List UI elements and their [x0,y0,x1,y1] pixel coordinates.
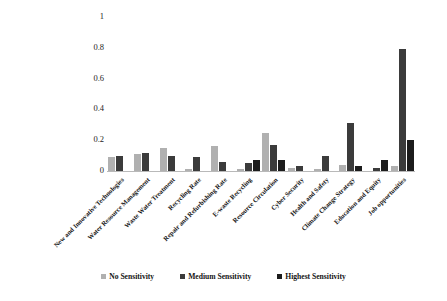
bar-group [210,17,236,171]
bar [407,140,414,171]
legend-label: No Sensitivity [109,272,154,281]
bar [134,154,141,171]
bar [245,163,252,171]
bar [347,123,354,171]
bar [262,133,269,172]
bar [193,157,200,171]
plot-area [107,17,415,171]
legend-item-0[interactable]: No Sensitivity [101,272,154,281]
y-axis-tick-3: 0.6 [93,74,104,83]
chart-legend: No SensitivityMedium SensitivityHighest … [0,272,447,281]
y-axis-tick-5: 1 [100,12,104,21]
bar-group [107,17,133,171]
bar [142,153,149,171]
bar [322,156,329,171]
bar [160,148,167,171]
bar-group [287,17,313,171]
x-axis-labels: New and Innovative TechnologiesWater Res… [0,171,447,251]
y-axis-tick-4: 0.8 [93,43,104,52]
chart-figure: 00.20.40.60.81 New and Innovative Techno… [0,0,447,301]
bar [278,160,285,171]
legend-item-2[interactable]: Highest Sensitivity [277,272,346,281]
bar [116,156,123,171]
bar [211,146,218,171]
bar-group [389,17,415,171]
legend-swatch-icon [180,274,185,279]
bar-group [312,17,338,171]
bar [108,157,115,171]
bar-group [261,17,287,171]
y-axis-tick-1: 0.2 [93,135,104,144]
bar [168,156,175,171]
legend-swatch-icon [277,274,282,279]
bar [270,145,277,171]
legend-label: Medium Sensitivity [188,272,251,281]
bar-group [364,17,390,171]
bar-group [338,17,364,171]
bar-group [158,17,184,171]
legend-swatch-icon [101,274,106,279]
bar [399,49,406,171]
bar-group [184,17,210,171]
legend-label: Highest Sensitivity [285,272,346,281]
bar [253,160,260,171]
bar [381,160,388,171]
bar-group [235,17,261,171]
bar-group [133,17,159,171]
legend-item-1[interactable]: Medium Sensitivity [180,272,251,281]
y-axis: 00.20.40.60.81 [78,0,104,185]
y-axis-tick-2: 0.4 [93,104,104,113]
bar [219,162,226,171]
